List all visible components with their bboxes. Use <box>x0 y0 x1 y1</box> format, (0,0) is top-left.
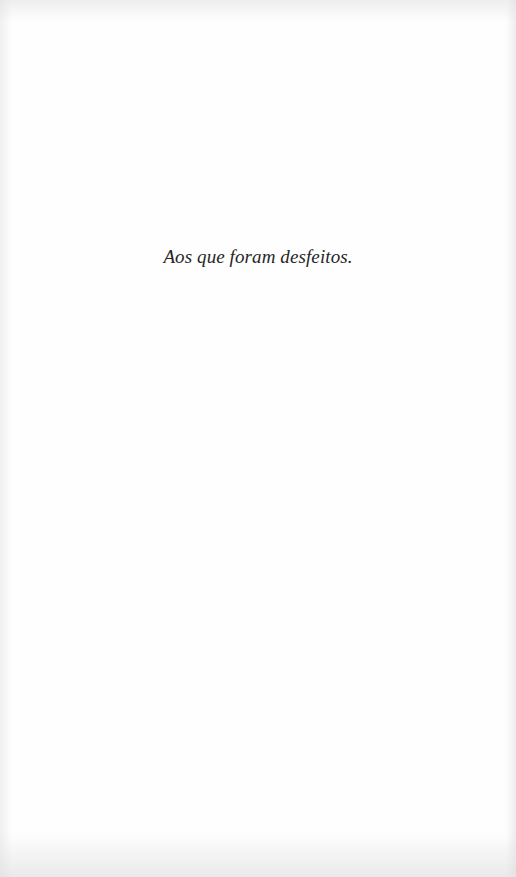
dedication-text: Aos que foram desfeitos. <box>0 245 516 269</box>
book-page: Aos que foram desfeitos. <box>0 0 516 877</box>
